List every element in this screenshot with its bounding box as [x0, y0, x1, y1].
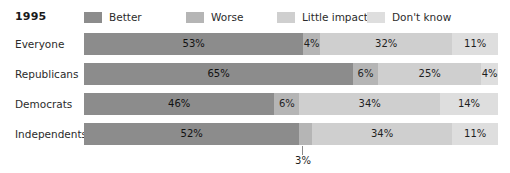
stacked-bar-chart: 1995 Better Worse Little impact Don't kn…	[0, 0, 510, 173]
page-title: 1995	[15, 10, 46, 23]
legend-swatch-better	[84, 12, 102, 23]
bar-segment-worse: 6%	[274, 93, 299, 115]
callout-label: 3%	[289, 155, 317, 166]
bar-segment-little-impact: 25%	[378, 63, 482, 85]
bar-segment-better: 46%	[84, 93, 274, 115]
bar-segment-value: 4%	[304, 33, 320, 55]
bar-segment-value: 14%	[458, 93, 480, 115]
bar-segment-value: 6%	[358, 63, 374, 85]
legend-item-dont-know: Don't know	[367, 11, 451, 24]
bar-segment-value: 4%	[482, 63, 498, 85]
bar-segment-worse: 6%	[353, 63, 378, 85]
bar-segment-value: 11%	[464, 33, 486, 55]
bar-segment-value: 25%	[419, 63, 441, 85]
legend-label-little-impact: Little impact	[302, 12, 368, 23]
row-label-democrats: Democrats	[15, 93, 72, 115]
chart-row: Independents52%3%34%11%	[0, 123, 510, 145]
bar-segment-little-impact: 34%	[299, 93, 440, 115]
bar-segment-value: 53%	[183, 33, 205, 55]
bar-segment-value: 6%	[279, 93, 295, 115]
bar-segment-dont-know: 14%	[440, 93, 498, 115]
bar-segment-better: 52%	[84, 123, 299, 145]
chart-rows: Everyone53%4%32%11%Republicans65%6%25%4%…	[0, 30, 510, 153]
bar-segment-value: 46%	[168, 93, 190, 115]
row-label-republicans: Republicans	[15, 63, 78, 85]
stacked-bar: 52%3%34%11%	[84, 123, 498, 145]
bar-segment-worse: 3%	[299, 123, 311, 145]
legend-swatch-worse	[186, 12, 204, 23]
row-label-everyone: Everyone	[15, 33, 64, 55]
stacked-bar: 65%6%25%4%	[84, 63, 498, 85]
chart-row: Everyone53%4%32%11%	[0, 33, 510, 55]
legend-swatch-dont-know	[367, 12, 385, 23]
bar-segment-dont-know: 11%	[452, 123, 498, 145]
bar-segment-value: 34%	[371, 123, 393, 145]
bar-segment-little-impact: 32%	[320, 33, 452, 55]
bar-segment-dont-know: 11%	[452, 33, 498, 55]
bar-segment-value: 52%	[181, 123, 203, 145]
bar-segment-better: 53%	[84, 33, 303, 55]
bar-segment-little-impact: 34%	[312, 123, 453, 145]
bar-segment-better: 65%	[84, 63, 353, 85]
legend-label-worse: Worse	[211, 12, 243, 23]
legend-label-dont-know: Don't know	[392, 12, 451, 23]
bar-segment-value: 34%	[359, 93, 381, 115]
bar-segment-value: 11%	[464, 123, 486, 145]
bar-segment-dont-know: 4%	[481, 63, 498, 85]
stacked-bar: 53%4%32%11%	[84, 33, 498, 55]
bar-segment-worse: 4%	[303, 33, 320, 55]
chart-row: Democrats46%6%34%14%	[0, 93, 510, 115]
legend-item-little-impact: Little impact	[277, 11, 368, 24]
bar-segment-value: 32%	[375, 33, 397, 55]
legend-item-better: Better	[84, 11, 142, 24]
stacked-bar: 46%6%34%14%	[84, 93, 498, 115]
row-label-independents: Independents	[15, 123, 87, 145]
legend-swatch-little-impact	[277, 12, 295, 23]
chart-header: 1995 Better Worse Little impact Don't kn…	[0, 0, 510, 30]
legend-label-better: Better	[109, 12, 142, 23]
legend-item-worse: Worse	[186, 11, 243, 24]
bar-segment-value: 65%	[207, 63, 229, 85]
chart-row: Republicans65%6%25%4%	[0, 63, 510, 85]
